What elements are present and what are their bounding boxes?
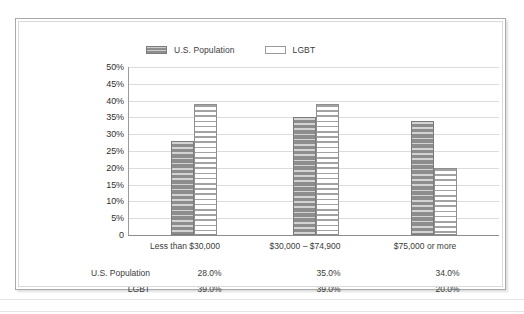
table-cell-lgbt-less-than-30000: 39.0% xyxy=(150,284,269,294)
chart-data-table: U.S. Population 28.0% 35.0% 34.0% LGBT 3… xyxy=(38,265,508,297)
table-row-header-us-population: U.S. Population xyxy=(38,268,150,278)
legend-label-lgbt: LGBT xyxy=(293,45,316,55)
table-cell-us-population-30000-74900: 35.0% xyxy=(269,268,388,278)
legend-swatch-lgbt xyxy=(265,46,286,54)
page-rule-lower xyxy=(0,311,524,312)
legend-item-lgbt: LGBT xyxy=(265,45,316,55)
bar-us-population-30000-74900 xyxy=(293,117,316,235)
x-axis-label-less-than-30000: Less than $30,000 xyxy=(126,241,244,251)
gridline-50: 50% xyxy=(129,67,499,68)
legend-item-us-population: U.S. Population xyxy=(146,45,235,55)
y-tick-label-30: 30% xyxy=(106,129,124,139)
y-tick-label-50: 50% xyxy=(106,62,124,72)
y-tick-label-45: 45% xyxy=(106,79,124,89)
bar-us-population-less-than-30000 xyxy=(171,141,194,235)
y-tick-label-10: 10% xyxy=(106,196,124,206)
x-axis-label-75000-or-more: $75,000 or more xyxy=(366,241,484,251)
table-row-header-lgbt: LGBT xyxy=(38,284,150,294)
table-row: U.S. Population 28.0% 35.0% 34.0% xyxy=(38,265,508,281)
gridline-0: 0 xyxy=(129,235,499,236)
y-tick-label-35: 35% xyxy=(106,112,124,122)
bar-lgbt-75000-or-more xyxy=(434,168,457,235)
legend-swatch-us-population xyxy=(146,46,167,54)
table-cell-lgbt-75000-or-more: 20.0% xyxy=(388,284,507,294)
chart-figure-frame: U.S. Population LGBT 50% 45% 40% 35% 30%… xyxy=(15,18,506,290)
legend-label-us-population: U.S. Population xyxy=(174,45,235,55)
table-row: LGBT 39.0% 39.0% 20.0% xyxy=(38,281,508,297)
y-tick-label-40: 40% xyxy=(106,96,124,106)
table-cell-us-population-less-than-30000: 28.0% xyxy=(150,268,269,278)
gridline-40: 40% xyxy=(129,101,499,102)
table-cell-lgbt-30000-74900: 39.0% xyxy=(269,284,388,294)
plot-area: 50% 45% 40% 35% 30% 25% 20% 15% 10% 5% 0 xyxy=(128,67,499,235)
x-axis-label-30000-74900: $30,000 – $74,900 xyxy=(245,241,365,251)
bar-lgbt-30000-74900 xyxy=(316,104,339,235)
page-rule-upper xyxy=(0,299,524,300)
table-cell-us-population-75000-or-more: 34.0% xyxy=(388,268,507,278)
gridline-45: 45% xyxy=(129,84,499,85)
y-tick-label-5: 5% xyxy=(111,213,124,223)
y-tick-label-20: 20% xyxy=(106,163,124,173)
chart-legend: U.S. Population LGBT xyxy=(146,45,315,55)
bar-lgbt-less-than-30000 xyxy=(194,104,217,235)
y-tick-label-15: 15% xyxy=(106,180,124,190)
y-tick-label-25: 25% xyxy=(106,146,124,156)
y-tick-label-0: 0 xyxy=(119,230,124,240)
bar-us-population-75000-or-more xyxy=(411,121,434,235)
